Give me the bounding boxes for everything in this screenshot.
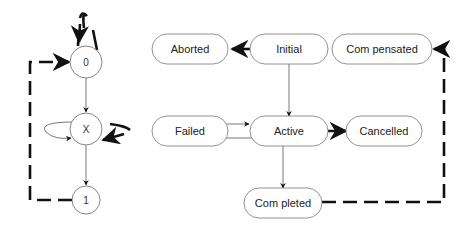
node-aborted-label: Aborted (171, 43, 210, 55)
node-compensated-label: Com pensated (346, 43, 418, 55)
left-diagram: 0 X 1 (30, 13, 130, 214)
node-1: 1 (72, 186, 100, 214)
edge-0-self-loop (78, 15, 97, 51)
node-active-label: Active (274, 125, 304, 137)
state-diagram: 0 X 1 Aborted Ini (0, 0, 468, 226)
node-cancelled: Cancelled (346, 116, 422, 146)
edge-x-self-loop-left (45, 122, 73, 138)
edge-1-to-0 (30, 62, 72, 200)
node-failed-label: Failed (175, 125, 205, 137)
node-1-label: 1 (83, 195, 89, 206)
edge-x-self-loop-right (110, 124, 130, 130)
node-completed: Com pleted (244, 188, 322, 218)
node-compensated: Com pensated (332, 34, 432, 64)
node-failed: Failed (152, 116, 228, 146)
node-completed-label: Com pleted (255, 197, 311, 209)
node-x-label: X (83, 124, 90, 135)
node-cancelled-label: Cancelled (360, 125, 409, 137)
node-0: 0 (70, 46, 102, 78)
right-diagram: Aborted Initial Com pensated Failed Acti… (152, 34, 444, 218)
node-active: Active (250, 116, 328, 146)
node-aborted: Aborted (152, 34, 228, 64)
node-x: X (70, 113, 102, 145)
node-0-label: 0 (83, 57, 89, 68)
node-initial: Initial (250, 34, 328, 64)
node-initial-label: Initial (276, 43, 302, 55)
